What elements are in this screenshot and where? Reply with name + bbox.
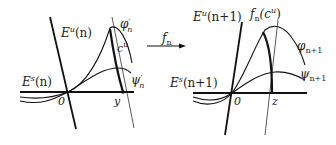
y-label: y xyxy=(113,95,121,108)
unstable-axis-right xyxy=(225,22,242,135)
fn-cu-label: fn(cu) xyxy=(249,6,281,23)
eu-n-label: Eu(n) xyxy=(60,25,92,40)
fn-map-label: fn xyxy=(161,31,172,47)
origin-label-right: 0 xyxy=(234,95,241,108)
origin-label-left: 0 xyxy=(58,95,65,108)
cu-label: cu xyxy=(117,40,128,55)
psi-n1-label: ψn+1 xyxy=(300,67,326,83)
point-y-dot xyxy=(121,90,125,94)
phi-prime-label: φ′n xyxy=(120,17,132,34)
phi-n1-label: φn+1 xyxy=(297,39,322,55)
eu-n1-label: Eu(n+1) xyxy=(192,9,242,24)
z-label: z xyxy=(271,95,278,108)
es-n-label: Es(n) xyxy=(21,74,52,89)
psi-prime-label: ψ′n xyxy=(131,73,144,90)
diagram-canvas: Eu(n) Es(n) φ′n cu ψ′n 0 y fn Eu(n+1) fn… xyxy=(0,0,336,145)
es-n1-label: Es(n+1) xyxy=(169,75,218,90)
